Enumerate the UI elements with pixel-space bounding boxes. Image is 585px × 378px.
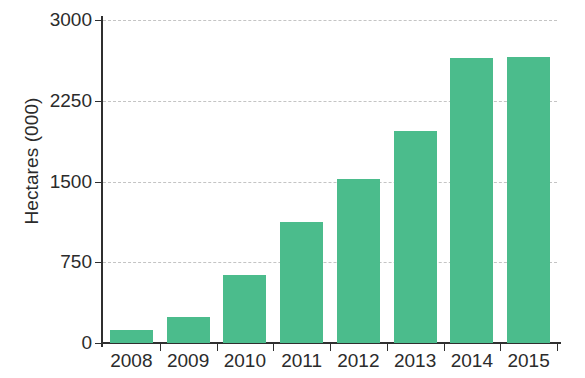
bar: [110, 330, 153, 343]
x-tick-label: 2008: [103, 350, 160, 373]
bar: [337, 179, 380, 343]
x-tick-mark: [387, 344, 388, 351]
x-tick-label: 2015: [500, 350, 557, 373]
x-tick-label: 2009: [160, 350, 217, 373]
x-tick-mark: [500, 344, 501, 351]
y-tick-mark: [95, 262, 103, 263]
x-tick-mark: [217, 344, 218, 351]
y-tick-label: 3000: [28, 10, 92, 29]
x-axis-tick-labels: 20082009201020112012201320142015: [103, 350, 557, 378]
y-tick-label: 2250: [28, 91, 92, 110]
x-tick-label: 2011: [273, 350, 330, 373]
y-tick-mark: [95, 182, 103, 183]
x-tick-mark: [330, 344, 331, 351]
y-tick-mark: [95, 343, 103, 344]
bar: [394, 131, 437, 343]
x-tick-mark: [160, 344, 161, 351]
bar: [507, 57, 550, 343]
bar: [450, 58, 493, 343]
x-tick-label: 2013: [387, 350, 444, 373]
y-tick-mark: [95, 101, 103, 102]
y-tick-label: 0: [28, 333, 92, 352]
bar: [280, 222, 323, 343]
x-tick-label: 2010: [217, 350, 274, 373]
y-tick-label: 750: [28, 252, 92, 271]
x-tick-label: 2014: [444, 350, 501, 373]
x-tick-label: 2012: [330, 350, 387, 373]
bars-group: [103, 20, 557, 343]
x-tick-mark: [557, 344, 558, 351]
plot-area: [103, 20, 557, 343]
x-tick-mark: [444, 344, 445, 351]
bar: [223, 275, 266, 343]
bar: [167, 317, 210, 343]
y-tick-mark: [95, 20, 103, 21]
x-tick-mark: [273, 344, 274, 351]
y-tick-label: 1500: [28, 172, 92, 191]
bar-chart: Hectares (000) 0750150022503000 20082009…: [0, 0, 585, 378]
y-axis-tick-labels: 0750150022503000: [26, 0, 92, 378]
